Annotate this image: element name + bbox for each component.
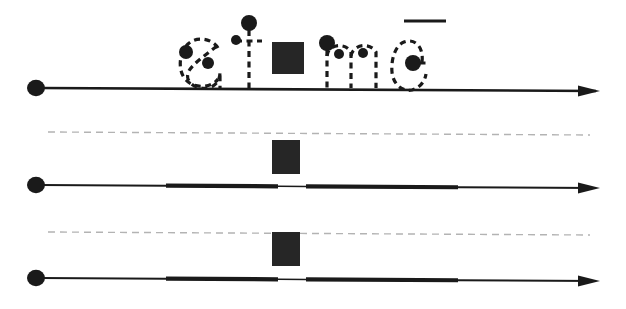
redaction-block-row2 — [272, 140, 300, 174]
dot-m-arch2 — [358, 48, 368, 58]
timeline-row-2-segment-1 — [40, 185, 166, 186]
figure-canvas — [0, 0, 626, 309]
timeline-row-2-segment-4 — [306, 186, 458, 187]
timeline-row-2-segment-2 — [166, 186, 278, 187]
timeline-row-1 — [27, 80, 600, 97]
timeline-row-3-segment-5 — [458, 280, 596, 281]
redaction-block-row1 — [272, 42, 304, 74]
dot-e-center — [405, 55, 421, 71]
handwriting-timeline-figure: aime — [0, 0, 626, 309]
timeline-row-1-segment-1 — [40, 88, 596, 91]
timeline-row-2 — [27, 132, 600, 194]
timeline-row-2-start-dot — [27, 177, 45, 194]
timeline-row-3-segment-1 — [40, 278, 166, 279]
dot-a-start — [179, 45, 193, 59]
timeline-row-3 — [27, 232, 600, 287]
timeline-row-3-segment-4 — [306, 279, 458, 280]
dot-m-arch1 — [334, 49, 344, 59]
redaction-block-row3 — [272, 232, 300, 266]
guide-dashed-row3 — [48, 232, 590, 235]
dot-i-stem — [241, 15, 257, 31]
timeline-row-2-arrowhead — [578, 183, 600, 194]
timeline-row-1-arrowhead — [578, 86, 600, 97]
dot-i-tittle — [231, 35, 241, 45]
timeline-row-1-start-dot — [27, 80, 45, 97]
timeline-row-2-segment-5 — [458, 187, 596, 188]
guide-dashed-row2 — [48, 132, 590, 135]
handwriting-group — [180, 30, 430, 90]
timeline-row-3-arrowhead — [578, 276, 600, 287]
timeline-row-3-segment-2 — [166, 279, 278, 280]
dot-a-mid — [202, 57, 214, 69]
dot-m-start — [319, 35, 335, 51]
timeline-row-3-start-dot — [27, 270, 45, 287]
